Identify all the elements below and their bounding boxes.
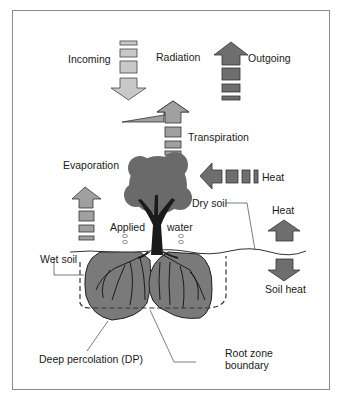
label-root-zone-2: boundary [225, 359, 269, 371]
incoming-radiation-arrow-icon [111, 41, 146, 100]
label-evaporation: Evaporation [63, 159, 119, 171]
label-radiation: Radiation [156, 51, 200, 63]
evaporation-arrow-icon [72, 187, 101, 240]
label-outgoing: Outgoing [248, 52, 291, 64]
label-wet-soil: Wet soil [40, 253, 77, 265]
wet-soil-bulb [85, 252, 212, 320]
label-transpiration: Transpiration [188, 131, 249, 143]
label-root-zone-1: Root zone [225, 347, 273, 359]
label-water: water [167, 221, 193, 233]
outgoing-radiation-arrow-icon [214, 42, 248, 100]
label-applied: Applied [110, 221, 145, 233]
heat-canopy-arrow-icon [200, 163, 258, 189]
label-heat-canopy: Heat [262, 171, 284, 183]
transpiration-arrow-icon [122, 101, 189, 155]
label-incoming: Incoming [68, 53, 111, 65]
tree-icon [124, 152, 192, 258]
label-soil-heat: Soil heat [265, 283, 306, 295]
label-deep-percolation: Deep percolation (DP) [39, 353, 143, 365]
label-dry-soil: Dry soil [192, 197, 227, 209]
soil-heat-arrow-icon [268, 259, 300, 281]
heat-surface-arrow-icon [268, 220, 300, 241]
label-heat-surface: Heat [272, 204, 294, 216]
